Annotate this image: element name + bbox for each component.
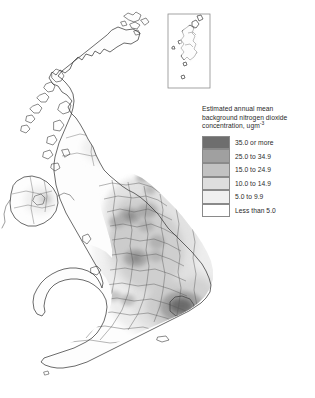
legend-label: 35.0 or more (235, 139, 274, 146)
concentration-surface-northern-ireland (24, 186, 56, 214)
legend-label: Less than 5.0 (235, 207, 276, 214)
map-legend: Estimated annual mean background nitroge… (200, 105, 312, 217)
legend-title-line-3: concentration, ugm (202, 122, 260, 129)
legend-swatch (202, 177, 230, 191)
legend-swatch (202, 204, 230, 218)
legend-label: 10.0 to 14.9 (235, 180, 271, 187)
shetland-islands-inset (168, 14, 210, 88)
figure-canvas: Estimated annual mean background nitroge… (0, 0, 315, 398)
legend-swatch (202, 190, 230, 204)
legend-item: Less than 5.0 (200, 204, 312, 218)
legend-item: 15.0 to 24.9 (200, 163, 312, 177)
legend-swatch (202, 149, 230, 163)
legend-title-units-exponent: -3 (260, 120, 265, 126)
legend-item: 10.0 to 14.9 (200, 177, 312, 191)
legend-title: Estimated annual mean background nitroge… (202, 105, 310, 131)
legend-swatch (202, 136, 230, 150)
legend-swatch-list: 35.0 or more 25.0 to 34.9 15.0 to 24.9 1… (200, 136, 312, 218)
legend-title-line-1: Estimated annual mean (202, 105, 273, 112)
concentration-surface-scotland (82, 132, 134, 164)
legend-label: 25.0 to 34.9 (235, 153, 271, 160)
legend-item: 5.0 to 9.9 (200, 190, 312, 204)
legend-item: 25.0 to 34.9 (200, 149, 312, 163)
legend-item: 35.0 or more (200, 136, 312, 150)
legend-title-line-2: background nitrogen dioxide (202, 114, 287, 121)
legend-label: 15.0 to 24.9 (235, 166, 271, 173)
legend-label: 5.0 to 9.9 (235, 193, 263, 200)
legend-swatch (202, 163, 230, 177)
